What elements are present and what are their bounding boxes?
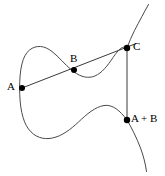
point-a-dot <box>19 85 25 91</box>
point-b-label: B <box>70 53 77 64</box>
point-a-label: A <box>7 81 15 92</box>
elliptic-curve-figure: A B C A + B <box>0 0 165 176</box>
unbounded-branch-lower-path <box>127 120 147 172</box>
figure-canvas <box>0 0 165 176</box>
curve-group <box>20 5 149 172</box>
point-sum-dot <box>124 117 130 123</box>
point-sum-label: A + B <box>131 113 157 124</box>
point-b-dot <box>71 67 77 73</box>
chord-line-a-b-c <box>21 44 136 89</box>
oval-component-lower-path <box>20 88 127 139</box>
point-c-label: C <box>133 41 140 52</box>
point-c-dot <box>124 45 130 51</box>
